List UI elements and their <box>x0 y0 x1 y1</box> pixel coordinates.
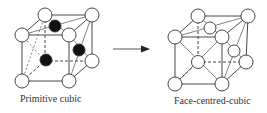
face-centred-cubic-label: Face-centred-cubic <box>174 95 251 106</box>
transformation-arrow <box>113 46 150 53</box>
primitive-cubic-label: Primitive cubic <box>20 93 81 104</box>
